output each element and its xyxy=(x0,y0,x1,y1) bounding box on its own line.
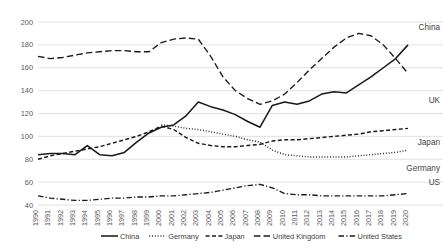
x-tick-label: 2001 xyxy=(167,210,176,226)
series-end-label-us: US xyxy=(429,178,441,187)
y-tick-label: 160 xyxy=(21,63,33,72)
x-tick-label: 1990 xyxy=(31,210,40,226)
x-tick-label: 2012 xyxy=(302,210,311,226)
x-tick-label: 2015 xyxy=(339,210,348,226)
y-tick-label: 40 xyxy=(25,201,33,210)
x-tick-label: 2007 xyxy=(241,210,250,226)
x-tick-label: 1994 xyxy=(80,210,89,226)
x-tick-label: 2005 xyxy=(216,210,225,226)
x-tick-label: 1992 xyxy=(56,210,65,226)
x-tick-label: 2009 xyxy=(265,210,274,226)
series-end-label-uk: UK xyxy=(429,96,441,105)
x-tick-label: 2018 xyxy=(376,210,385,226)
x-tick-label: 2016 xyxy=(352,210,361,226)
x-tick-label: 2010 xyxy=(278,210,287,226)
series-line-japan xyxy=(38,126,408,159)
x-tick-label: 1991 xyxy=(43,210,52,226)
x-tick-label: 2020 xyxy=(401,210,410,226)
y-tick-label: 180 xyxy=(21,40,33,49)
series-end-label-germany: Germany xyxy=(406,164,441,173)
series-end-label-china: China xyxy=(419,23,441,32)
x-tick-label: 1995 xyxy=(93,210,102,226)
series-line-china xyxy=(38,45,408,156)
x-tick-label: 1993 xyxy=(68,210,77,226)
line-chart: 406080100120140160180200 199019911992199… xyxy=(0,0,443,248)
series-line-united-kingdom xyxy=(38,33,408,104)
y-tick-label: 60 xyxy=(25,178,33,187)
y-axis-tick-labels: 406080100120140160180200 xyxy=(21,18,33,210)
legend-label-united-kingdom: United Kingdom xyxy=(273,232,326,241)
legend-label-japan: Japan xyxy=(225,232,245,241)
y-tick-label: 140 xyxy=(21,86,33,95)
gridlines xyxy=(38,22,443,205)
x-tick-label: 2013 xyxy=(315,210,324,226)
x-axis-tick-labels: 1990199119921993199419951996199719981999… xyxy=(31,210,410,226)
legend: ChinaGermanyJapanUnited KingdomUnited St… xyxy=(101,232,402,241)
x-tick-label: 1998 xyxy=(130,210,139,226)
data-series xyxy=(38,33,408,200)
x-tick-label: 1999 xyxy=(142,210,151,226)
y-tick-label: 100 xyxy=(21,132,33,141)
x-tick-label: 2017 xyxy=(364,210,373,226)
x-tick-label: 2006 xyxy=(228,210,237,226)
y-tick-label: 200 xyxy=(21,18,33,27)
x-tick-label: 2008 xyxy=(253,210,262,226)
x-tick-label: 2011 xyxy=(290,210,299,225)
legend-label-germany: Germany xyxy=(168,232,199,241)
y-tick-label: 80 xyxy=(25,155,33,164)
y-tick-label: 120 xyxy=(21,109,33,118)
x-tick-label: 2019 xyxy=(389,210,398,226)
x-tick-label: 1997 xyxy=(117,210,126,226)
legend-label-united-states: United States xyxy=(358,232,403,241)
x-tick-label: 2014 xyxy=(327,210,336,226)
x-tick-label: 1996 xyxy=(105,210,114,226)
series-end-label-japan: Japan xyxy=(418,138,441,147)
series-end-labels: ChinaGermanyJapanUKUS xyxy=(406,23,441,187)
series-line-united-states xyxy=(38,184,408,200)
x-tick-label: 2003 xyxy=(191,210,200,226)
legend-label-china: China xyxy=(120,232,140,241)
series-line-germany xyxy=(161,125,408,157)
chart-canvas: 406080100120140160180200 199019911992199… xyxy=(0,0,443,248)
x-tick-label: 2000 xyxy=(154,210,163,226)
x-tick-label: 2004 xyxy=(204,210,213,226)
x-tick-label: 2002 xyxy=(179,210,188,226)
